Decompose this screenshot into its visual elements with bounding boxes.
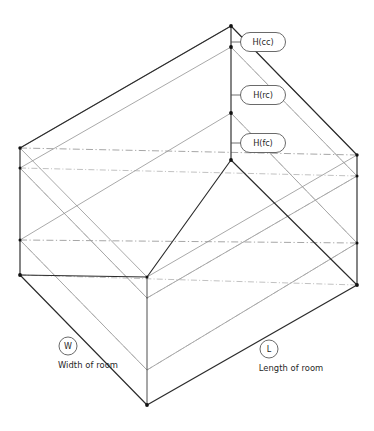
callout-label-h-fc: H(fc) xyxy=(253,138,272,148)
diagram-canvas: H(cc) H(rc) H(fc) W Width of room L Leng… xyxy=(0,0,374,431)
callout-marker-width: W xyxy=(64,342,72,351)
callout-length[interactable]: L Length of room xyxy=(259,340,324,373)
room-isometric-drawing: H(cc) H(rc) H(fc) W Width of room L Leng… xyxy=(0,0,374,431)
hidden-construction-edges xyxy=(20,26,357,370)
callout-caption-length: Length of room xyxy=(259,363,324,373)
callout-label-h-cc: H(cc) xyxy=(252,37,273,47)
callout-h-cc[interactable]: H(cc) xyxy=(231,33,286,52)
callout-h-rc[interactable]: H(rc) xyxy=(231,86,286,105)
callout-caption-width: Width of room xyxy=(58,360,118,370)
centerlines xyxy=(20,47,357,370)
callout-h-fc[interactable]: H(fc) xyxy=(231,134,286,153)
callout-marker-length: L xyxy=(267,345,272,354)
callout-label-h-rc: H(rc) xyxy=(253,90,273,100)
callout-width[interactable]: W Width of room xyxy=(58,337,118,370)
